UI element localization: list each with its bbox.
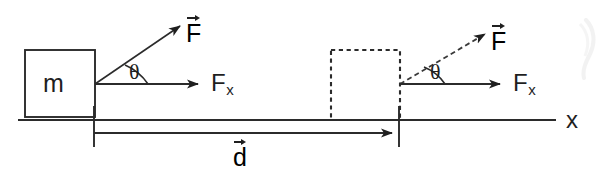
mass-label: m xyxy=(43,71,64,96)
force-x-subscript-right: x xyxy=(528,81,536,98)
force-vector-label-right: F xyxy=(491,21,506,54)
displacement-letter: d xyxy=(233,145,247,170)
final-block xyxy=(331,50,400,120)
angle-label-left: θ xyxy=(129,61,140,83)
x-axis-label: x xyxy=(566,108,578,132)
angle-label-right: θ xyxy=(430,61,441,83)
vector-arrow-overbar-icon xyxy=(233,137,247,146)
force-vector-label-left: F xyxy=(186,13,201,46)
physics-diagram: m θ θ F F Fx Fx d x xyxy=(0,0,608,177)
force-vector-letter-right: F xyxy=(491,29,506,54)
force-x-letter-left: F xyxy=(211,69,226,96)
force-x-subscript-left: x xyxy=(226,81,234,98)
force-x-label-right: Fx xyxy=(513,71,535,95)
force-vector-letter-left: F xyxy=(186,21,201,46)
force-x-letter-right: F xyxy=(513,69,528,96)
force-vector-arrow-right xyxy=(400,34,485,84)
vector-arrow-overbar-icon xyxy=(186,13,201,22)
vector-arrow-overbar-icon xyxy=(491,21,506,30)
force-x-label-left: Fx xyxy=(211,71,233,95)
displacement-label: d xyxy=(233,137,247,170)
